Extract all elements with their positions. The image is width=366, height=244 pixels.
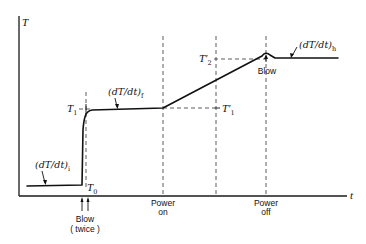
t1-prime-label: T′1 — [222, 102, 235, 117]
blow-arrow-1-icon — [81, 197, 84, 202]
blow-arrow-2-icon — [87, 197, 90, 202]
temperature-time-diagram: T t T0 T1 T′1 T′2 (dT/dt)i — [0, 0, 366, 244]
temperature-labels: T0 T1 T′1 T′2 — [67, 52, 235, 196]
power-on-sublabel: on — [158, 207, 168, 217]
y-axis-label: T — [22, 16, 29, 28]
slope-labels: (dT/dt)i (dT/dt)f (dT/dt)h — [35, 39, 336, 185]
slope-initial-label: (dT/dt)i — [35, 159, 70, 173]
power-off-sublabel: off — [261, 207, 271, 217]
blow-twice-sublabel: ( twice ) — [70, 224, 100, 234]
blow-twice-label: Blow — [76, 214, 95, 224]
t1-label: T1 — [67, 102, 77, 117]
slope-heating-label: (dT/dt)h — [299, 39, 336, 53]
slope-initial-arrow-icon — [43, 180, 47, 185]
t2-prime-label: T′2 — [199, 52, 212, 67]
slope-final-label: (dT/dt)f — [108, 86, 144, 100]
blow-peak-label: Blow — [258, 66, 277, 76]
x-axis-label: t — [350, 189, 354, 201]
temperature-curve — [27, 53, 338, 186]
blow-peak-arrow-icon — [264, 54, 268, 59]
event-markers: Blow ( twice ) Power on Power off Blow — [70, 54, 278, 234]
t0-label: T0 — [87, 181, 97, 196]
slope-final-arrow-icon — [115, 104, 119, 109]
guide-lines — [79, 36, 266, 196]
